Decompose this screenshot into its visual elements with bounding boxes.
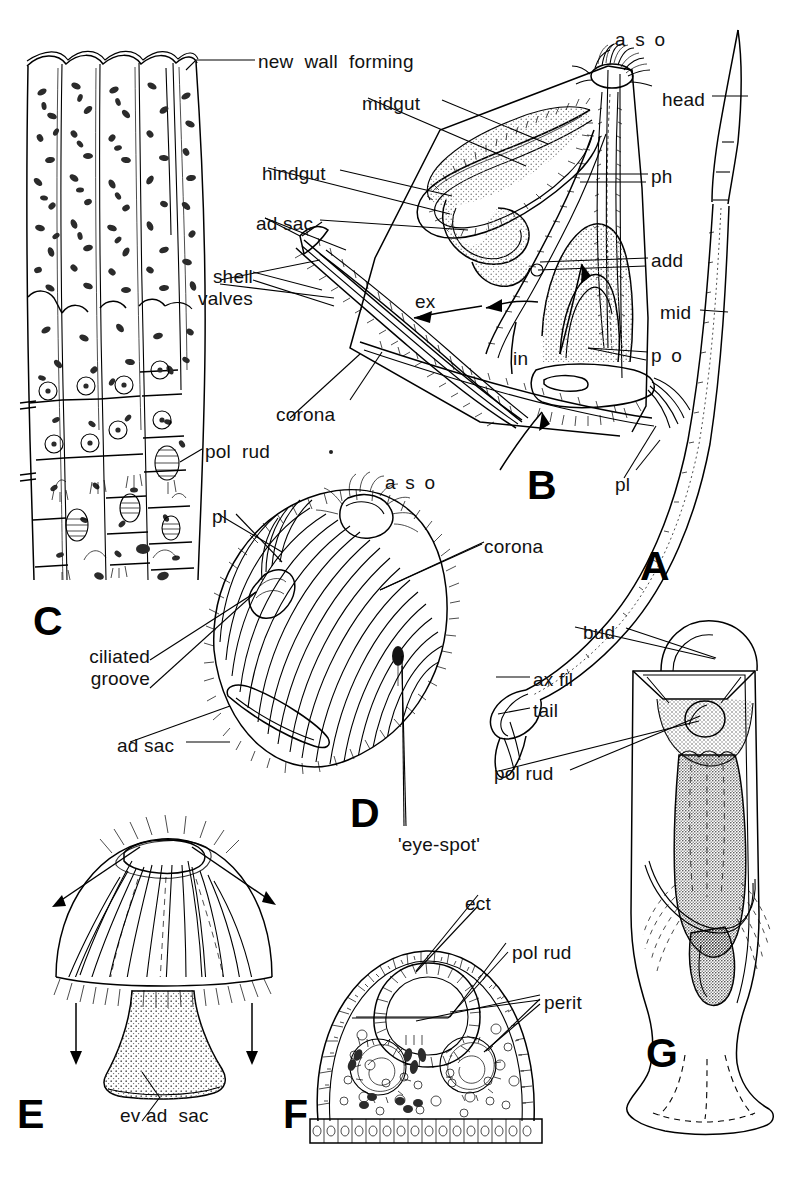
panel-letter-c: C — [33, 601, 63, 642]
label-pol-rud-g: pol rud — [494, 763, 554, 784]
label-new-wall-forming: new wall forming — [258, 51, 414, 72]
label-head: head — [662, 89, 705, 110]
label-po: p o — [651, 345, 684, 366]
label-ph: ph — [651, 166, 673, 187]
panel-letter-a: A — [640, 546, 670, 587]
label-tail: tail — [533, 700, 558, 721]
panel-letter-f: F — [283, 1094, 308, 1135]
label-shell-valves: shell valves — [133, 266, 253, 310]
label-eye-spot: 'eye-spot' — [398, 834, 480, 855]
panel-letter-e: E — [17, 1094, 44, 1135]
label-ad-sac-b: ad sac — [256, 213, 313, 234]
label-corona-b: corona — [276, 404, 335, 425]
label-ev-ad-sac: ev ad sac — [120, 1105, 209, 1126]
label-perit: perit — [544, 992, 582, 1013]
label-add: add — [651, 250, 683, 271]
label-pl-b: pl — [615, 474, 630, 495]
label-hindgut: hindgut — [262, 163, 326, 184]
label-mid: mid — [660, 302, 691, 323]
figure-plate: new wall forming midgut hindgut ad sac s… — [0, 0, 799, 1177]
label-ect: ect — [465, 893, 491, 914]
label-pl-d: pl — [212, 506, 227, 527]
panel-letter-g: G — [646, 1033, 678, 1074]
label-ax-fil: ax fil — [533, 669, 573, 690]
label-pol-rud-c: pol rud — [205, 441, 270, 462]
label-ciliated-groove: ciliated groove — [58, 646, 150, 690]
panel-letter-d: D — [350, 793, 380, 834]
label-aso-b: a s o — [615, 29, 667, 50]
label-aso-d: a s o — [385, 472, 437, 493]
label-in: in — [513, 348, 528, 369]
plate-leader-lines — [0, 0, 799, 1177]
panel-letter-b: B — [527, 465, 557, 506]
label-ex: ex — [415, 291, 435, 312]
label-ad-sac-d: ad sac — [117, 735, 174, 756]
label-midgut: midgut — [362, 93, 420, 114]
label-corona-d: corona — [484, 536, 543, 557]
label-bud: bud — [583, 622, 615, 643]
label-pol-rud-f: pol rud — [512, 942, 572, 963]
